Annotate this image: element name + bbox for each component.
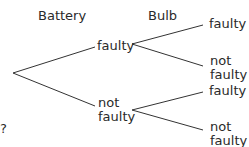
question-mark: ?: [0, 122, 7, 136]
node-battery-faulty: faulty: [97, 39, 134, 53]
node-bulb-fn-2: faulty: [210, 68, 247, 82]
node-bulb-nf: faulty: [209, 84, 246, 98]
node-bulb-nn-1: not: [210, 120, 231, 134]
node-bulb-fn-1: not: [210, 54, 231, 68]
node-bulb-nn-2: faulty: [210, 134, 247, 147]
branch-bulb-ff: [132, 25, 203, 44]
node-battery-not-faulty: faulty: [98, 110, 135, 124]
header-bulb: Bulb: [148, 9, 177, 23]
branch-bulb-fn: [132, 44, 203, 66]
header-battery: Battery: [38, 9, 86, 23]
branch-bulb-nn: [132, 110, 203, 130]
node-bulb-ff: faulty: [209, 17, 246, 31]
node-battery-not: not: [98, 96, 119, 110]
branch-battery-faulty: [13, 47, 95, 73]
branch-bulb-nf: [132, 92, 203, 110]
branch-battery-not-faulty: [13, 73, 95, 106]
